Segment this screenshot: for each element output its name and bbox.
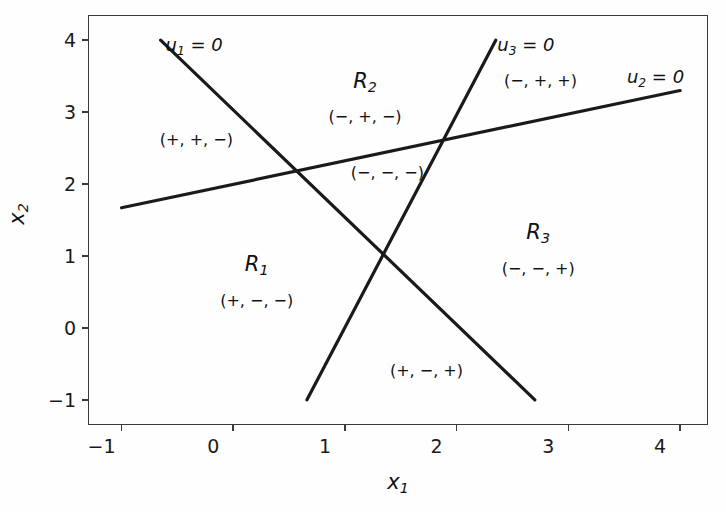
region-label: R2 xyxy=(353,69,377,95)
x-tick-mark xyxy=(679,425,681,431)
y-tick-mark xyxy=(82,111,88,113)
x-axis-label: x1 xyxy=(387,470,409,496)
x-tick-mark xyxy=(344,425,346,431)
y-tick-mark xyxy=(82,39,88,41)
y-tick-label: −1 xyxy=(46,389,76,411)
x-tick-label: 0 xyxy=(193,435,233,457)
y-tick-label: 2 xyxy=(46,173,76,195)
x-tick-mark xyxy=(456,425,458,431)
x-tick-mark xyxy=(568,425,570,431)
x-tick-mark xyxy=(121,425,123,431)
y-tick-mark xyxy=(82,327,88,329)
x-tick-label: −1 xyxy=(82,435,122,457)
line-equation-label: u3 = 0 xyxy=(497,34,554,57)
x-tick-mark xyxy=(232,425,234,431)
figure: −101234 −101234 u1 = 0u3 = 0u2 = 0R2(−, … xyxy=(0,0,726,512)
x-tick-label: 1 xyxy=(305,435,345,457)
y-tick-mark xyxy=(82,183,88,185)
x-tick-label: 2 xyxy=(417,435,457,457)
line-equation-label: u1 = 0 xyxy=(166,34,223,57)
y-tick-label: 0 xyxy=(46,317,76,339)
y-tick-mark xyxy=(82,399,88,401)
sign-vector-label: (+, +, −) xyxy=(160,129,233,148)
x-tick-label: 3 xyxy=(528,435,568,457)
y-tick-label: 1 xyxy=(46,245,76,267)
sign-vector-label: (+, −, −) xyxy=(220,290,293,309)
region-label: R1 xyxy=(245,252,269,278)
y-tick-label: 4 xyxy=(46,29,76,51)
sign-vector-label: (+, −, +) xyxy=(390,360,463,379)
y-tick-mark xyxy=(82,255,88,257)
y-tick-label: 3 xyxy=(46,101,76,123)
x-tick-label: 4 xyxy=(640,435,680,457)
sign-vector-label: (−, +, +) xyxy=(504,70,577,89)
line-equation-label: u2 = 0 xyxy=(627,66,684,89)
region-label: R3 xyxy=(526,220,550,246)
sign-vector-label: (−, +, −) xyxy=(329,106,402,125)
sign-vector-label: (−, −, +) xyxy=(502,259,575,278)
sign-vector-label: (−, −, −) xyxy=(351,162,424,181)
y-axis-label: x2 xyxy=(5,203,31,225)
